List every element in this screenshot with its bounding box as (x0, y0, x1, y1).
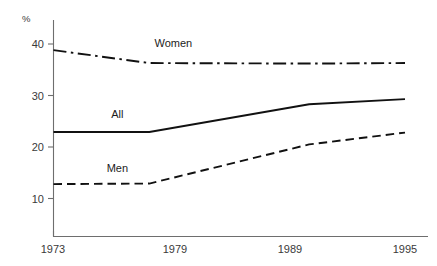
y-axis: 40 30 20 10 % (22, 13, 54, 237)
chart-canvas: 40 30 20 10 % 1973 1979 1989 1995 Women … (0, 0, 437, 266)
series-line-all (54, 99, 406, 132)
x-tick-label-1973: 1973 (41, 243, 65, 255)
line-chart-figure: 40 30 20 10 % 1973 1979 1989 1995 Women … (0, 0, 437, 266)
series-line-men (54, 133, 406, 185)
series-label-men: Men (107, 162, 128, 174)
y-tick-label-20: 20 (32, 141, 44, 153)
x-tick-label-1995: 1995 (393, 243, 417, 255)
x-tick-label-1979: 1979 (163, 243, 187, 255)
y-tick-label-10: 10 (32, 193, 44, 205)
y-tick-label-30: 30 (32, 90, 44, 102)
x-axis: 1973 1979 1989 1995 (41, 231, 428, 255)
series-line-women (54, 50, 406, 63)
y-axis-ticks (48, 44, 54, 199)
series-annotations: Women All Men (107, 37, 192, 174)
x-tick-label-1989: 1989 (278, 243, 302, 255)
series-label-all: All (111, 108, 123, 120)
series-label-women: Women (154, 37, 192, 49)
y-tick-label-40: 40 (32, 38, 44, 50)
y-axis-unit-label: % (22, 13, 31, 24)
